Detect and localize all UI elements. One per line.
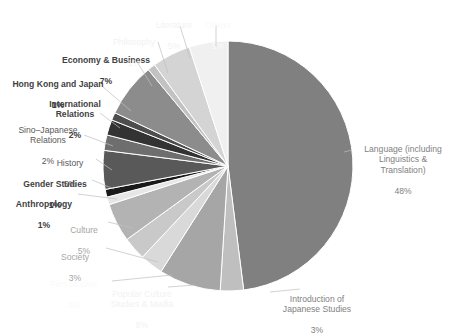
slice-label-language: Language (including Linguistics & Transl…: [352, 133, 454, 197]
slice-label-popular-culture-value: 8%: [136, 320, 148, 330]
slice-label-economy-business-value: 7%: [100, 76, 112, 86]
slice-label-gender-studies-value: 1%: [49, 200, 61, 210]
slice-label-history-value: 5%: [64, 179, 76, 189]
slice-label-others-name: Others: [205, 20, 231, 30]
slice-label-introduction-value: 3%: [311, 325, 323, 335]
slice-label-film-studies-value: 3%: [68, 300, 80, 310]
pie-slice: [228, 41, 353, 290]
slice-label-philosophy-value: 1%: [128, 58, 140, 68]
slice-label-culture-value: 5%: [78, 246, 90, 256]
slice-label-introduction: Introduction of Japanese Studies 3%: [266, 283, 368, 336]
slice-label-international-relations-value: 2%: [69, 130, 81, 140]
slice-label-language-value: 48%: [394, 186, 411, 196]
slice-label-others-value: 5%: [212, 41, 224, 51]
slice-label-language-name: Language (including Linguistics & Transl…: [364, 144, 441, 175]
slice-label-literature-value: 5%: [168, 41, 180, 51]
slice-label-others: Others 5%: [192, 9, 244, 51]
slice-label-literature-name: Literature: [156, 20, 192, 30]
slice-label-sino-japanese-value: 2%: [42, 156, 54, 166]
slice-label-popular-culture-name: Popular Culture Studies & Media: [111, 289, 174, 310]
slice-label-introduction-name: Introduction of Japanese Studies: [283, 294, 351, 315]
slice-label-anthropology-value: 1%: [38, 220, 50, 230]
slice-label-society-value: 3%: [69, 273, 81, 283]
slice-label-hong-kong-japan-value: 1%: [52, 100, 64, 110]
